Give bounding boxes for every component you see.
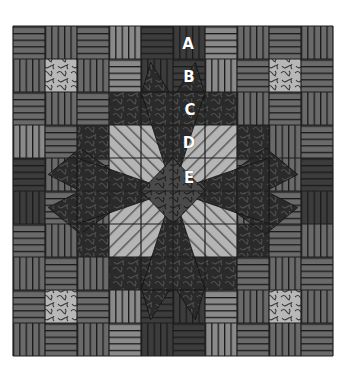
quilt-block: [301, 224, 333, 257]
quilt-block: [13, 323, 45, 356]
quilt-block: [205, 59, 237, 92]
quilt-pattern: [0, 0, 350, 369]
quilt-block: [269, 323, 301, 356]
quilt-block: [301, 158, 333, 191]
quilt-block: [237, 92, 269, 125]
quilt-block: [109, 323, 141, 356]
quilt-block: [13, 290, 45, 323]
quilt-block: [109, 59, 141, 92]
quilt-block: [77, 26, 109, 59]
quilt-block: [237, 323, 269, 356]
quilt-block: [237, 290, 269, 323]
quilt-block: [45, 290, 77, 323]
quilt-block: [109, 290, 141, 323]
quilt-block: [109, 257, 141, 290]
quilt-block: [301, 257, 333, 290]
quilt-block: [205, 92, 237, 125]
quilt-block: [301, 59, 333, 92]
piece-label-a: A: [182, 35, 194, 53]
quilt-block: [13, 92, 45, 125]
quilt-block: [109, 26, 141, 59]
quilt-block: [205, 257, 237, 290]
quilt-block: [45, 224, 77, 257]
quilt-block: [301, 290, 333, 323]
quilt-block: [269, 59, 301, 92]
piece-label-b: B: [183, 68, 194, 86]
quilt-block: [77, 59, 109, 92]
quilt-block: [13, 26, 45, 59]
quilt-block: [301, 125, 333, 158]
quilt-block: [77, 290, 109, 323]
quilt-block: [205, 26, 237, 59]
quilt-block: [13, 59, 45, 92]
quilt-block: [301, 92, 333, 125]
quilt-block: [13, 224, 45, 257]
quilt-block: [13, 158, 45, 191]
quilt-block: [301, 191, 333, 224]
quilt-block: [237, 26, 269, 59]
quilt-block: [173, 323, 205, 356]
quilt-block: [269, 92, 301, 125]
quilt-block: [269, 224, 301, 257]
quilt-block: [13, 257, 45, 290]
quilt-block: [269, 257, 301, 290]
quilt-block: [13, 191, 45, 224]
piece-label-c: C: [184, 101, 195, 119]
piece-label-e: E: [184, 169, 194, 187]
quilt-block: [45, 92, 77, 125]
quilt-block: [45, 323, 77, 356]
quilt-block: [205, 323, 237, 356]
quilt-block: [45, 257, 77, 290]
quilt-block: [301, 323, 333, 356]
quilt-block: [269, 26, 301, 59]
quilt-block: [77, 323, 109, 356]
quilt-block: [141, 26, 173, 59]
quilt-block: [77, 92, 109, 125]
quilt-block: [141, 323, 173, 356]
quilt-block: [301, 26, 333, 59]
quilt-block: [45, 59, 77, 92]
quilt-block: [45, 125, 77, 158]
quilt-block: [45, 26, 77, 59]
quilt-block: [13, 125, 45, 158]
quilt-block: [237, 257, 269, 290]
quilt-block: [77, 257, 109, 290]
piece-label-d: D: [183, 134, 195, 152]
quilt-block: [269, 290, 301, 323]
quilt-block: [205, 290, 237, 323]
quilt-block: [237, 59, 269, 92]
quilt-block: [109, 92, 141, 125]
quilt-block: [269, 125, 301, 158]
